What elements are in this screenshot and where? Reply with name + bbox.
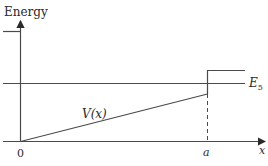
potential-ramp bbox=[21, 94, 208, 142]
potential-step bbox=[208, 71, 246, 95]
a-label: a bbox=[203, 147, 210, 158]
energy-level-label: E5 bbox=[249, 77, 263, 89]
energy-level-letter: E bbox=[249, 76, 258, 90]
energy-level-subscript: 5 bbox=[258, 83, 263, 92]
potential-label: V(x) bbox=[82, 108, 107, 120]
x-axis-label: x bbox=[259, 145, 265, 156]
energy-diagram bbox=[0, 0, 268, 166]
origin-label: 0 bbox=[17, 148, 24, 159]
y-axis-label: Energy bbox=[4, 6, 48, 18]
